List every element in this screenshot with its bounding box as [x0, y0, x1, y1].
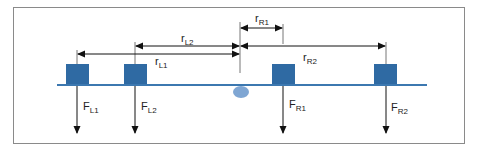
weight-block-l2	[124, 64, 147, 84]
weight-block-l1	[66, 64, 89, 84]
weight-block-r2	[374, 64, 397, 84]
lever-diagram: rR1 rL2 rL1 rR2 FL1 FL2 FR1 FR2	[0, 0, 479, 152]
fulcrum-pivot	[233, 86, 249, 98]
weight-block-r1	[272, 64, 295, 84]
